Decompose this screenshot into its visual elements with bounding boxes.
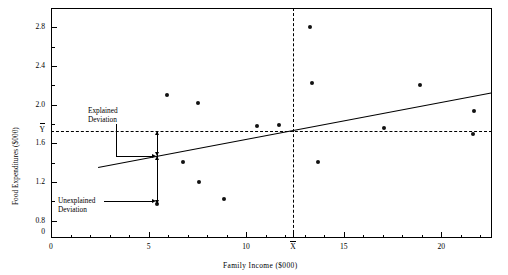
x-axis-tick: [441, 232, 442, 238]
x-axis-minor-tick: [90, 235, 91, 239]
x-axis-tick: [246, 232, 247, 238]
y-axis-minor-tick: [51, 201, 55, 202]
x-axis-minor-tick: [207, 235, 208, 239]
data-point: [181, 160, 185, 164]
scatter-plot-figure: Food Expenditures ($000) Family Income (…: [0, 0, 508, 275]
deviation-vertical-line: [157, 131, 158, 204]
y-axis-minor-tick: [51, 163, 55, 164]
data-point: [316, 160, 320, 164]
explained-deviation-label: Explained Deviation: [88, 106, 118, 125]
x-axis-minor-tick: [324, 235, 325, 239]
deviation-arrow-bottom: [155, 200, 159, 204]
x-axis-tick: [149, 232, 150, 238]
y-axis-tick-label: 1.2: [17, 177, 45, 186]
data-point: [196, 101, 200, 105]
x-axis-tick-label: 5: [135, 242, 163, 251]
y-mean-dashed-line: [51, 131, 492, 132]
data-point: [255, 124, 259, 128]
y-axis-minor-tick: [51, 47, 55, 48]
x-axis-minor-tick: [383, 235, 384, 239]
explained-leader-arrowhead: [152, 154, 156, 158]
x-axis-tick-label: 10: [232, 242, 260, 251]
y-axis-tick-label: 1.6: [17, 138, 45, 147]
explained-deviation-line2: Deviation: [88, 115, 117, 124]
y-axis-tick: [51, 182, 57, 183]
x-axis-minor-tick: [168, 235, 169, 239]
x-axis-minor-tick: [71, 235, 72, 239]
x-axis-minor-tick: [422, 235, 423, 239]
x-axis-minor-tick: [402, 235, 403, 239]
deviation-arrow-top: [155, 131, 159, 135]
data-point: [472, 109, 476, 113]
unexplained-leader-arrowhead: [152, 199, 156, 203]
data-point: [165, 93, 169, 97]
x-axis-minor-tick: [110, 235, 111, 239]
data-point: [308, 25, 312, 29]
x-axis-minor-tick: [480, 235, 481, 239]
x-axis-minor-tick: [266, 235, 267, 239]
y-mean-axis-label: Y: [17, 125, 45, 134]
x-axis-minor-tick: [461, 235, 462, 239]
y-axis-tick-label: 2.4: [17, 61, 45, 70]
explained-leader-vertical: [116, 124, 117, 156]
data-point: [382, 126, 386, 130]
x-axis-tick: [51, 232, 52, 238]
x-axis-minor-tick: [285, 235, 286, 239]
x-mean-axis-label: X: [279, 242, 307, 251]
x-axis-minor-tick: [363, 235, 364, 239]
y-mean-symbol: Y: [40, 125, 45, 134]
y-axis-tick-label: 0.8: [17, 216, 45, 225]
y-axis-tick: [51, 143, 57, 144]
y-axis-tick: [51, 105, 57, 106]
data-point: [471, 132, 475, 136]
y-axis-origin-label: 0: [17, 227, 45, 236]
unexplained-deviation-line1: Unexplained: [58, 196, 95, 205]
x-axis-tick-label: 0: [37, 242, 65, 251]
y-axis-tick: [51, 27, 57, 28]
explained-leader-horizontal: [116, 156, 154, 157]
x-axis-minor-tick: [227, 235, 228, 239]
x-mean-dashed-line: [293, 8, 294, 238]
unexplained-deviation-line2: Deviation: [58, 205, 87, 214]
x-axis-title: Family Income ($000): [223, 261, 298, 270]
x-axis-tick: [344, 232, 345, 238]
y-axis-minor-tick: [51, 85, 55, 86]
data-point: [197, 180, 201, 184]
y-axis-tick: [51, 66, 57, 67]
data-point: [222, 197, 226, 201]
y-axis-tick: [51, 221, 57, 222]
x-axis-minor-tick: [305, 235, 306, 239]
x-axis-minor-tick: [129, 235, 130, 239]
x-mean-symbol: X: [290, 242, 295, 251]
explained-deviation-line1: Explained: [88, 106, 118, 115]
unexplained-leader-horizontal: [104, 201, 153, 202]
deviation-arrow-mid-lower: [155, 156, 159, 160]
y-axis-minor-tick: [51, 124, 55, 125]
y-axis-tick-label: 2.8: [17, 22, 45, 31]
data-point: [310, 81, 314, 85]
x-axis-tick-label: 20: [427, 242, 455, 251]
deviation-arrow-mid-upper: [155, 152, 159, 156]
x-axis-minor-tick: [188, 235, 189, 239]
x-axis-tick-label: 15: [330, 242, 358, 251]
unexplained-deviation-label: Unexplained Deviation: [58, 196, 95, 215]
data-point: [418, 83, 422, 87]
data-point: [277, 123, 281, 127]
y-axis-tick-label: 2.0: [17, 100, 45, 109]
